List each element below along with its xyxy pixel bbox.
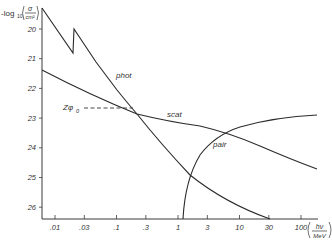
y-tick-label: 22 — [27, 84, 37, 93]
y-label-num: σ — [28, 5, 33, 12]
zphi-label: Zφ — [62, 103, 73, 112]
y-tick-label: 23 — [27, 114, 37, 123]
x-tick-label: 30 — [265, 223, 274, 232]
x-label-den: MeV — [313, 233, 326, 239]
y-tick-label: 26 — [27, 203, 37, 212]
x-ticks: .01.03.1.3131030100 — [50, 215, 308, 232]
y-tick-label: 20 — [27, 25, 37, 34]
x-tick-label: 10 — [235, 223, 244, 232]
x-tick-label: .03 — [79, 223, 90, 232]
scat-label: scat — [167, 110, 182, 119]
y-tick-label: 24 — [27, 143, 36, 152]
cross-section-chart: 20212223242526 .01.03.1.3131030100 -log … — [0, 0, 332, 242]
y-tick-label: 25 — [27, 173, 37, 182]
y-label-sub: 10 — [17, 13, 23, 19]
x-tick-label: .3 — [143, 223, 150, 232]
zphi-subscript: 0 — [76, 108, 80, 114]
x-tick-label: 100 — [295, 223, 308, 232]
y-axis-label: -log 10 σ cm² — [1, 5, 39, 20]
y-tick-label: 21 — [27, 54, 36, 63]
phot-label: phot — [115, 71, 132, 80]
x-tick-label: .1 — [113, 223, 119, 232]
x-tick-label: .01 — [50, 223, 60, 232]
pair-label: pair — [212, 140, 227, 149]
y-ticks: 20212223242526 — [27, 25, 42, 212]
y-label-prefix: -log — [1, 9, 14, 18]
x-axis-label: hν MeV — [308, 222, 331, 239]
x-tick-label: 3 — [205, 223, 210, 232]
y-label-den: cm² — [25, 14, 34, 20]
x-tick-label: 1 — [176, 223, 180, 232]
x-label-num: hν — [316, 223, 324, 230]
pair-curve — [183, 115, 317, 219]
